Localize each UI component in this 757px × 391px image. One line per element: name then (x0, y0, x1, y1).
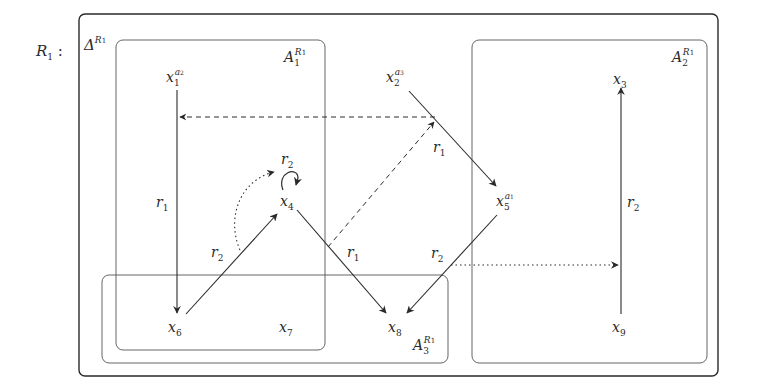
x8-sub: 8 (396, 328, 402, 338)
x5-sup-sub: 1 (510, 193, 514, 200)
a1-sup-sub: 1 (302, 49, 306, 57)
region-a3-label: A3R1 (413, 338, 435, 352)
node-x3: x3 (613, 72, 627, 86)
title-label: R1 : (36, 44, 63, 59)
delta-sup-sub: 1 (102, 37, 106, 45)
label-sub: 2 (438, 254, 444, 264)
edge-label-x4-x8: r1 (347, 245, 359, 259)
region-a1 (116, 40, 325, 350)
edge-label-x4-loop: r2 (281, 152, 293, 166)
x9-sub: 9 (620, 328, 626, 338)
edge-x2-x5 (409, 91, 496, 186)
node-x5: x5a1 (496, 194, 514, 208)
node-x8: x8 (388, 320, 402, 334)
delta-symbol: Δ (84, 36, 95, 54)
x1-sub: 1 (174, 78, 180, 88)
a3-base: A (413, 337, 423, 353)
x8-base: x (388, 319, 396, 335)
node-x6: x6 (168, 320, 182, 334)
diagram-canvas (0, 0, 757, 391)
title-suffix: : (53, 42, 63, 60)
label-r: r (431, 245, 438, 261)
a3-sup: R (424, 335, 431, 345)
label-r: r (156, 194, 163, 210)
outer-box-label: ΔR1 (84, 38, 106, 53)
x7-base: x (279, 319, 287, 335)
label-r: r (433, 139, 440, 155)
label-sub: 1 (354, 253, 360, 263)
a3-sub: 3 (423, 346, 429, 356)
x1-base: x (166, 69, 174, 85)
label-sub: 2 (218, 253, 224, 263)
x7-sub: 7 (287, 328, 293, 338)
a2-base: A (672, 49, 682, 65)
label-r: r (627, 194, 634, 210)
edge-label-x9-x3: r2 (627, 195, 639, 209)
x6-base: x (168, 319, 176, 335)
edge-label-x6-x4: r2 (211, 245, 223, 259)
x1-sup-sub: 2 (180, 69, 184, 76)
label-sub: 1 (440, 148, 446, 158)
a1-sub: 1 (294, 58, 300, 68)
x2-base: x (386, 69, 394, 85)
label-sub: 1 (163, 203, 169, 213)
node-x1: x1a2 (166, 70, 184, 84)
a1-base: A (284, 49, 294, 65)
edge-label-x2-x5: r1 (433, 140, 445, 154)
edge-label-x1-x6: r1 (156, 195, 168, 209)
edge-x4-x8 (297, 210, 386, 313)
title-base: R (36, 42, 47, 60)
x5-base: x (496, 193, 504, 209)
node-x2: x2a3 (386, 70, 404, 84)
node-x9: x9 (612, 320, 626, 334)
region-a1-label: A1R1 (284, 50, 306, 64)
node-x7: x7 (279, 320, 293, 334)
a3-sup-sub: 1 (431, 337, 435, 345)
x6-sub: 6 (176, 328, 182, 338)
label-r: r (281, 151, 288, 167)
edge-x5-x8 (407, 215, 497, 313)
x9-base: x (612, 319, 620, 335)
x2-sup-sub: 3 (400, 69, 404, 76)
region-a2-label: A2R1 (672, 50, 694, 64)
x3-sub: 3 (621, 80, 627, 90)
edge-x4-loop (282, 172, 298, 190)
edge-label-x5-x8: r2 (431, 246, 443, 260)
x2-sub: 2 (394, 78, 400, 88)
node-x4: x4 (280, 194, 294, 208)
label-sub: 2 (288, 160, 294, 170)
title-sub: 1 (47, 52, 53, 62)
a2-sup-sub: 1 (690, 49, 694, 57)
label-sub: 2 (634, 203, 640, 213)
label-r: r (211, 244, 218, 260)
x4-sub: 4 (288, 202, 294, 212)
x3-base: x (613, 71, 621, 87)
edge-x6-x4 (186, 214, 277, 314)
a2-sup: R (683, 47, 690, 57)
x4-base: x (280, 193, 288, 209)
delta-sup: R (95, 35, 102, 45)
label-r: r (347, 244, 354, 260)
a1-sup: R (295, 47, 302, 57)
dashed-edge-diagonal (328, 122, 434, 247)
a2-sub: 2 (682, 58, 688, 68)
x5-sub: 5 (504, 202, 510, 212)
